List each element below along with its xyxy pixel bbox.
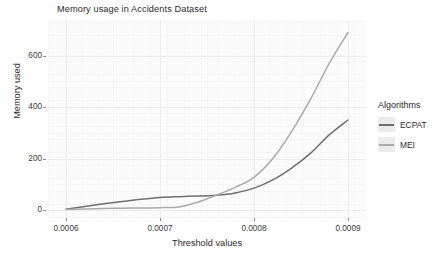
x-axis-tick-mark (160, 218, 161, 221)
legend-item-label: ECPAT (400, 120, 427, 130)
page-title: Memory usage in Accidents Dataset (57, 4, 207, 14)
legend: Algorithms ECPATMEI (378, 100, 446, 156)
legend-item-label: MEI (400, 140, 415, 150)
y-axis-tick-mark (43, 210, 46, 211)
series-line-mei (66, 33, 348, 210)
plot-panel (48, 20, 366, 218)
legend-items: ECPATMEI (378, 116, 446, 153)
x-axis-tick-mark (66, 218, 67, 221)
y-axis-tick-mark (43, 56, 46, 57)
y-axis-tick-mark (43, 107, 46, 108)
legend-item-ecpat[interactable]: ECPAT (378, 116, 446, 133)
x-axis-tick-label: 0.0008 (241, 224, 266, 233)
x-axis-tick-mark (254, 218, 255, 221)
y-axis-tick-label: 0 (8, 205, 42, 214)
y-axis-tick-label: 200 (8, 154, 42, 163)
chart-figure: Memory usage in Accidents Dataset 020040… (0, 0, 448, 272)
x-axis-tick-label: 0.0006 (53, 224, 78, 233)
x-axis-tick-mark (348, 218, 349, 221)
series-line-ecpat (66, 120, 348, 209)
legend-item-mei[interactable]: MEI (378, 136, 446, 153)
legend-key-swatch (378, 117, 395, 132)
x-axis-tick-label: 0.0009 (335, 224, 360, 233)
y-axis-title: Memory used (12, 46, 22, 136)
y-axis-tick-mark (43, 159, 46, 160)
legend-title: Algorithms (378, 100, 446, 110)
x-axis-title: Threshold values (48, 238, 366, 248)
legend-key-swatch (378, 137, 395, 152)
series-layer (48, 20, 366, 218)
x-axis-tick-label: 0.0007 (147, 224, 172, 233)
